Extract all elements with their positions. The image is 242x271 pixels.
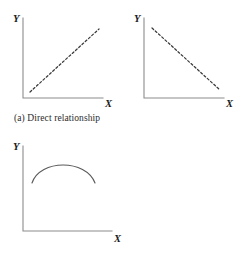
plot-curvilinear-relationship: Y X: [0, 132, 140, 250]
panel-curvilinear-relationship: Y X (c) Curvilinear relationship: [0, 132, 140, 271]
x-axis-label-b: X: [225, 98, 234, 109]
data-line-inverse: [152, 28, 220, 90]
panel-inverse-relationship: Y X (b) Inverse relationship: [121, 0, 242, 132]
axes-c: [23, 146, 112, 231]
x-axis-label-c: X: [113, 233, 122, 244]
data-line-direct: [30, 29, 99, 92]
plot-inverse-relationship: Y X: [121, 0, 242, 112]
axes-a: [23, 18, 103, 98]
panel-direct-relationship: Y X (a) Direct relationship: [0, 0, 121, 132]
plot-direct-relationship: Y X: [0, 0, 121, 112]
data-curve-curvilinear: [32, 165, 95, 183]
x-axis-label-a: X: [104, 98, 113, 109]
caption-direct-relationship: (a) Direct relationship: [14, 113, 100, 123]
y-axis-label-a: Y: [13, 13, 21, 24]
y-axis-label-b: Y: [134, 13, 142, 24]
figure-three-relationships: Y X (a) Direct relationship Y X (b) Inve…: [0, 0, 242, 271]
y-axis-label-c: Y: [13, 141, 21, 152]
